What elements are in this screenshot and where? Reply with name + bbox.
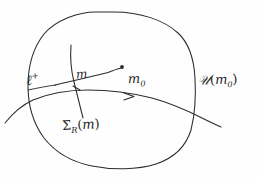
segment-m-to-m0-path xyxy=(55,68,121,85)
label-neighbourhood-script-u: 𝒰 xyxy=(198,72,211,87)
neighbourhood-boundary-path xyxy=(28,12,195,169)
label-m-zero-base: m xyxy=(128,71,141,86)
label-neighbourhood-of-m-zero: 𝒰(m0) xyxy=(198,72,238,90)
label-m-base: m xyxy=(76,67,88,82)
point-m0-marker xyxy=(120,65,124,69)
label-m: m xyxy=(76,68,88,81)
label-neighbourhood-close-paren: ) xyxy=(232,71,238,86)
sigma-section-curve-path xyxy=(71,45,83,118)
label-sigma-base: Σ xyxy=(62,118,72,133)
label-ell-plus: ℓ+ xyxy=(25,71,39,87)
label-sigma-r-of-m: ΣR(m) xyxy=(62,117,101,136)
figure-canvas: ℓ+ m m0 𝒰(m0) ΣR(m) xyxy=(0,0,258,178)
tick-at-m xyxy=(73,86,80,90)
label-sigma-close-paren: ) xyxy=(94,116,100,131)
label-ell-plus-superscript: + xyxy=(31,70,39,81)
label-sigma-arg: m xyxy=(82,116,95,132)
label-neighbourhood-arg-base: m xyxy=(215,72,228,87)
label-m-zero: m0 xyxy=(128,72,146,89)
ell-plus-curve-path xyxy=(5,90,221,127)
label-m-zero-subscript: 0 xyxy=(140,79,145,88)
